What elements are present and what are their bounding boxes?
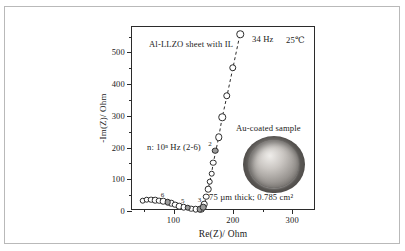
ytickminor-mark [129,195,132,196]
ytickminor-mark [129,132,132,133]
ytickmajor-mark [127,211,132,212]
xtick-label: 100 [167,216,180,225]
data-point-marker [208,170,215,177]
xtickmajor-mark [174,209,175,214]
ytickminor-mark [129,163,132,164]
ytickmajor-mark [127,148,132,149]
xtickminor-mark [144,209,145,212]
ytick-label: 400 [112,80,125,89]
ytick-label: 300 [112,112,125,121]
xtickminor-mark [263,209,264,212]
ytick-label: 100 [112,175,125,184]
figure-panel: -Im(Z)/ Ohm Re(Z)/ Ohm Al-LLZO sheet wit… [4,6,400,244]
ytick-label: 200 [112,143,125,152]
ytickmajor-mark [127,179,132,180]
xtickmajor-mark [292,209,293,214]
x-axis-title: Re(Z)/ Ohm [199,229,248,239]
ytick-label: 500 [112,48,125,57]
data-point-marker [164,199,171,206]
xtickmajor-mark [233,209,234,214]
y-axis-title: -Im(Z)/ Ohm [98,93,108,142]
xtick-label: 300 [286,216,299,225]
ytickmajor-mark [127,116,132,117]
data-point-marker [210,159,217,166]
data-point-marker [203,193,210,200]
data-point-marker [212,147,219,154]
data-point-marker [205,186,212,193]
data-point-label: 2 [208,140,212,147]
data-point-marker [218,114,226,122]
xtick-label: 200 [226,216,239,225]
ytickminor-mark [129,68,132,69]
data-point-marker [236,31,244,39]
ytickminor-mark [129,100,132,101]
data-point-marker [200,204,207,211]
ytickmajor-mark [127,84,132,85]
data-point-marker [206,179,213,186]
data-point-label: 5 [181,197,185,204]
data-point-marker [215,134,223,142]
data-point-label: 3 [198,196,202,203]
data-point-marker [184,205,191,212]
ytickminor-mark [129,37,132,38]
data-point-label: 6 [161,192,165,199]
data-point-marker [229,64,237,72]
ytick-label: 0 [121,207,125,216]
ytickmajor-mark [127,52,132,53]
data-point-marker [223,92,231,100]
plot-area: 0100200300400500100200300 6532 [131,26,315,210]
